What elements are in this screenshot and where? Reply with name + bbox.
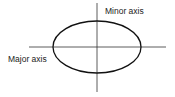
ellipse-figure (0, 0, 175, 97)
major-axis-label: Major axis (8, 54, 47, 64)
ellipse-diagram: Minor axis Major axis (0, 0, 175, 97)
minor-axis-label: Minor axis (105, 6, 144, 16)
